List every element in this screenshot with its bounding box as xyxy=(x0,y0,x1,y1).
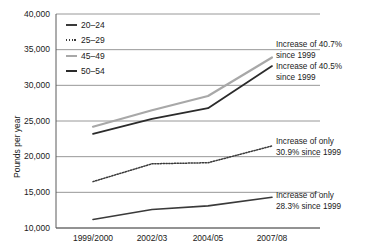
series-line-25-29 xyxy=(93,146,272,182)
legend-label-45-49: 45–49 xyxy=(81,51,105,61)
legend-swatch-50-54 xyxy=(66,70,77,72)
annot-25-29: Increase of only 30.9% since 1999 xyxy=(276,137,341,158)
y-tick-label: 10,000 xyxy=(6,223,50,233)
line-chart: Pounds per year 40,00035,00030,00025,000… xyxy=(0,0,365,252)
legend-label-50-54: 50–54 xyxy=(81,66,105,76)
legend-swatch-25-29 xyxy=(66,39,77,41)
x-tick-label: 2007/08 xyxy=(240,233,304,243)
y-tick-label: 30,000 xyxy=(6,80,50,90)
annot-45-49: Increase of 40.7% since 1999 xyxy=(276,40,342,61)
legend-swatch-20-24 xyxy=(66,24,77,26)
series-lines-group xyxy=(93,58,272,220)
y-tick-label: 15,000 xyxy=(6,187,50,197)
legend-swatch-45-49 xyxy=(66,55,77,57)
series-line-20-24 xyxy=(93,197,272,219)
legend-label-25-29: 25–29 xyxy=(81,35,105,45)
x-tick-label: 2002/03 xyxy=(120,233,184,243)
annot-20-24: Increase of only 28.3% since 1999 xyxy=(276,191,341,212)
y-tick-label: 40,000 xyxy=(6,9,50,19)
y-tick-label: 35,000 xyxy=(6,44,50,54)
series-line-50-54 xyxy=(93,66,272,134)
chart-canvas xyxy=(0,0,365,252)
annot-50-54: Increase of 40.5% since 1999 xyxy=(276,62,342,83)
y-tick-label: 25,000 xyxy=(6,116,50,126)
x-tick-label: 2004/05 xyxy=(176,233,240,243)
x-tick-label: 1999/2000 xyxy=(61,233,125,243)
legend-label-20-24: 20–24 xyxy=(81,20,105,30)
series-line-45-49 xyxy=(93,58,272,127)
y-tick-label: 20,000 xyxy=(6,151,50,161)
